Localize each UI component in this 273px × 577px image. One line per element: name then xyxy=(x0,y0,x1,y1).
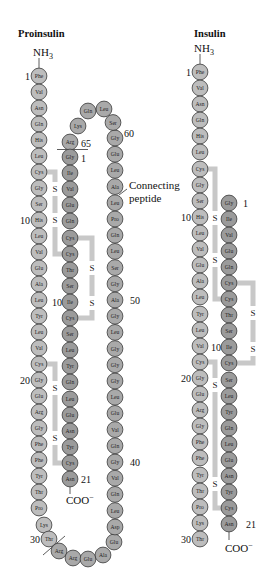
residue-label: Val xyxy=(35,345,43,351)
residue-label: Thr xyxy=(196,488,204,494)
residue: Leu xyxy=(192,144,208,160)
residue-label: Leu xyxy=(100,106,109,112)
residue-label: Leu xyxy=(111,248,120,254)
residue-label: Ile xyxy=(226,344,232,350)
residue-label: Gly xyxy=(111,459,120,465)
residue-label: Gln xyxy=(66,379,75,385)
proinsulin-c50-number: 50 xyxy=(130,295,140,306)
proinsulin-b30-number: 30 xyxy=(30,534,40,545)
residue-label: Leu xyxy=(66,347,75,353)
residue-label: Cys xyxy=(196,166,205,172)
residue: Gly xyxy=(107,341,123,357)
residue: Thr xyxy=(31,484,47,500)
residue-label: Leu xyxy=(111,167,120,173)
proinsulin-b10-number: 10 xyxy=(20,215,30,226)
residue: Thr xyxy=(221,307,237,323)
residue-label: Gly xyxy=(35,185,44,191)
residue: Ser xyxy=(192,193,208,209)
residue: Val xyxy=(31,340,47,356)
residue-label: Thr xyxy=(35,489,43,495)
residue: Leu xyxy=(192,289,208,305)
residue: Asp xyxy=(107,519,123,535)
proinsulin-c65-number: 65 xyxy=(81,138,91,149)
residue: Ile xyxy=(221,339,237,355)
residue-label: Gly xyxy=(111,313,120,319)
residue-label: Glu xyxy=(225,248,234,254)
residue-label: Lys xyxy=(40,522,48,528)
residue-label: Phe xyxy=(196,439,205,445)
residue: Glu xyxy=(80,551,96,567)
residue: Ser xyxy=(62,326,78,342)
residue: Leu xyxy=(107,163,123,179)
residue-label: His xyxy=(196,133,204,139)
residue-label: Ser xyxy=(35,201,43,207)
residue-label: Cys xyxy=(66,251,75,257)
residue: Leu xyxy=(62,391,78,407)
residue: Asn xyxy=(62,423,78,439)
connecting-peptide-label-line1: Connecting xyxy=(129,179,180,191)
residue: Val xyxy=(221,227,237,243)
insulin-a-chain: GlyIleValGluGlnCysCysThrSerIleCysSerLeuT… xyxy=(221,195,237,532)
residue: Ala xyxy=(95,547,111,563)
residue: Gln xyxy=(31,116,47,132)
s-label: S xyxy=(212,255,217,265)
residue: Phe xyxy=(192,434,208,450)
residue: Ser xyxy=(31,196,47,212)
residue: Val xyxy=(192,241,208,257)
residue: Leu xyxy=(31,324,47,340)
residue: Leu xyxy=(107,325,123,341)
residue-label: Leu xyxy=(196,230,205,236)
residue-label: Ser xyxy=(225,328,233,334)
residue: Gly xyxy=(192,177,208,193)
residue-label: Leu xyxy=(111,200,120,206)
residue-label: Gln xyxy=(35,121,44,127)
residue: Cys xyxy=(221,500,237,516)
insulin-b1-number: 1 xyxy=(186,67,191,78)
insulin-b20-number: 20 xyxy=(181,373,191,384)
residue: Pro xyxy=(31,500,47,516)
residue-label: Leu xyxy=(66,396,75,402)
s-label: S xyxy=(89,263,94,273)
residue: Gly xyxy=(31,372,47,388)
insulin-a10-number: 10 xyxy=(211,342,221,353)
residue-label: Gly xyxy=(196,182,205,188)
residue-label: Ala xyxy=(35,281,44,287)
residue-label: Ala xyxy=(111,297,120,303)
residue: Gln xyxy=(80,103,96,119)
residue: Glu xyxy=(192,257,208,273)
residue-label: Ile xyxy=(67,299,73,305)
residue-label: Arg xyxy=(69,555,78,561)
residue: Ile xyxy=(62,294,78,310)
residue-label: Leu xyxy=(225,441,234,447)
s-label: S xyxy=(250,344,255,354)
residue: Glu xyxy=(107,146,123,162)
residue-label: Thr xyxy=(45,536,53,542)
residue: Phe xyxy=(31,68,47,84)
residue: Arg xyxy=(65,550,81,566)
residue-label: Gly xyxy=(35,425,44,431)
residue: Leu xyxy=(31,228,47,244)
residue: Leu xyxy=(107,389,123,405)
proinsulin-a1-number: 1 xyxy=(81,153,86,164)
residue-label: Gly xyxy=(196,423,205,429)
residue-label: Gly xyxy=(225,200,234,206)
proinsulin-c40-number: 40 xyxy=(130,457,140,468)
residue-label: Ser xyxy=(225,377,233,383)
residue: His xyxy=(31,212,47,228)
residue: Arg xyxy=(192,402,208,418)
residue-label: Val xyxy=(35,89,43,95)
residue: Arg xyxy=(31,404,47,420)
residue: Gly xyxy=(107,454,123,470)
residue-label: Gln xyxy=(111,443,120,449)
insulin-a21-number: 21 xyxy=(246,519,256,530)
residue: Gly xyxy=(107,308,123,324)
residue-label: Arg xyxy=(196,407,205,413)
residue: Glu xyxy=(192,386,208,402)
residue: Phe xyxy=(192,450,208,466)
insulin-title: Insulin xyxy=(194,28,226,39)
residue: Gln xyxy=(62,374,78,390)
residue: Gly xyxy=(107,357,123,373)
residue-label: Glu xyxy=(111,151,120,157)
insulin-b-chain: PheValAsnGlnHisLeuCysGlySerHisLeuValGluA… xyxy=(192,64,208,547)
residue: Ala xyxy=(107,292,123,308)
